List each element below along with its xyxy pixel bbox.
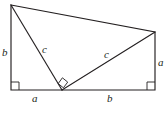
geometry-figure: b c c a a b <box>0 0 168 119</box>
bottom-right-right-angle-icon <box>147 82 155 90</box>
right-hypotenuse-segment <box>62 32 155 90</box>
label-bottom-right-b: b <box>107 93 113 104</box>
bottom-left-right-angle-icon <box>11 82 19 90</box>
figure-canvas <box>0 0 168 119</box>
left-hypotenuse-segment <box>11 5 62 90</box>
label-bottom-left-a: a <box>32 93 38 104</box>
label-right-hypotenuse-c: c <box>104 49 109 60</box>
label-left-leg-b: b <box>2 47 8 58</box>
label-right-leg-a: a <box>158 57 164 68</box>
label-left-hypotenuse-c: c <box>42 44 47 55</box>
